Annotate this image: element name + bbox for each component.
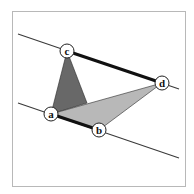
diagram-frame [13,12,186,187]
point-a-label: a [48,108,54,120]
point-c: c [60,44,74,58]
geometry-diagram: c a b d [0,0,194,194]
point-b-label: b [96,124,102,136]
point-d-label: d [159,77,165,89]
point-a: a [44,107,58,121]
point-b: b [92,123,106,137]
point-d: d [155,76,169,90]
point-c-label: c [65,45,70,57]
